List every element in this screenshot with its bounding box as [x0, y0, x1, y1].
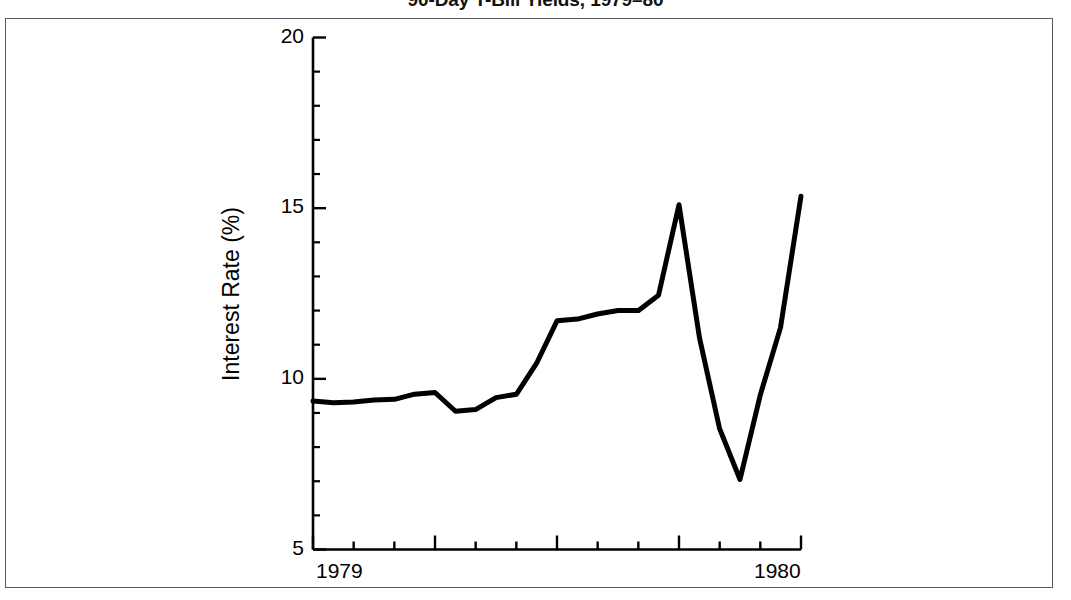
x-axis-tick-label: 1979 [316, 559, 363, 583]
y-axis-tick-label: 10 [6, 365, 304, 389]
plot-frame: 510152019791980 Interest Rate (%) [5, 18, 1053, 588]
data-series-group [313, 196, 801, 479]
plot-canvas [6, 19, 1051, 586]
x-axis-tick-label: 1980 [754, 559, 801, 583]
chart-title: 90-Day T-Bill Yields, 1979–80 [0, 0, 1071, 11]
y-axis-tick-label: 15 [6, 194, 304, 218]
axes-group [313, 38, 801, 550]
y-axis-tick-label: 20 [6, 24, 304, 48]
y-axis-title: Interest Rate (%) [218, 207, 245, 381]
data-line-series-0 [313, 196, 801, 479]
chart-figure: 90-Day T-Bill Yields, 1979–80 5101520197… [0, 0, 1071, 600]
y-axis-tick-label: 5 [6, 536, 304, 560]
